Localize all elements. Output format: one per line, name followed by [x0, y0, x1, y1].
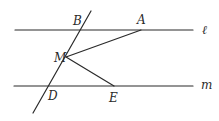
label-point-b: B	[72, 14, 82, 28]
segment-me	[66, 57, 114, 86]
label-point-e: E	[108, 91, 118, 105]
label-line-m: m	[201, 78, 212, 92]
geometry-diagram: ℓ m B A M D E	[0, 0, 219, 121]
label-point-m: M	[53, 51, 67, 65]
label-line-l: ℓ	[202, 23, 207, 37]
label-point-a: A	[136, 13, 146, 27]
label-point-d: D	[47, 89, 58, 103]
